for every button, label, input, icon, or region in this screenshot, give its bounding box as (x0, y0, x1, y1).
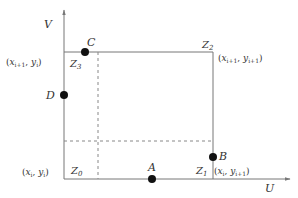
point-d-label: D (45, 89, 55, 102)
grid-cell-diagram: V U C D A B Z3 Z2 Z0 Z1 (xi+1, yi) (xi+1… (0, 0, 298, 198)
point-c (81, 48, 89, 56)
z0-coord: (xi, yi) (22, 167, 49, 178)
point-a-label: A (147, 161, 156, 174)
u-axis-label: U (265, 182, 275, 195)
point-a (148, 175, 156, 183)
z3-coord: (xi+1, yi) (6, 57, 42, 68)
z2-coord: (xi+1, yi+1) (218, 53, 262, 64)
point-c-label: C (87, 36, 96, 49)
z3-label: Z3 (69, 58, 82, 71)
z2-label: Z2 (201, 39, 214, 52)
z1-label: Z1 (195, 165, 207, 178)
point-b (209, 153, 217, 161)
z0-label: Z0 (70, 165, 83, 178)
z1-coord: (xi, yi+1) (214, 166, 250, 177)
v-axis-label: V (44, 18, 53, 31)
point-b-label: B (218, 150, 227, 163)
point-d (60, 91, 68, 99)
